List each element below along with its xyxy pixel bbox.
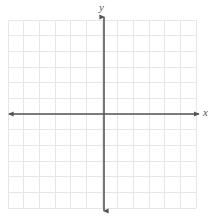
x-axis-label: x bbox=[203, 107, 208, 118]
coordinate-plane: y x bbox=[0, 0, 215, 223]
y-axis-label: y bbox=[99, 2, 104, 13]
coordinate-plane-canvas bbox=[0, 0, 215, 223]
